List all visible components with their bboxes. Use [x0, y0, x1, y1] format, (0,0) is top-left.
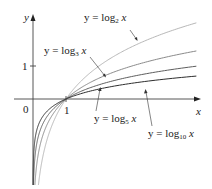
log10-label-base: 10	[179, 133, 186, 141]
log3-label-base: 3	[75, 50, 79, 58]
log10-pointer-arrow-icon	[144, 89, 148, 94]
log2-pointer-arrow-icon	[135, 37, 138, 41]
x-tick-label-1: 1	[64, 105, 70, 116]
log3-label: y = log3 x	[44, 45, 86, 58]
y-axis-label: y	[24, 12, 29, 23]
log-functions-chart	[0, 0, 212, 189]
origin-label: 0	[23, 104, 29, 115]
log5-label-base: 5	[125, 118, 129, 126]
log10-label: y = log10 x	[148, 128, 194, 141]
log5-label-prefix: y = log	[94, 112, 125, 124]
y-tick-label-1: 1	[22, 61, 28, 72]
log2-label-prefix: y = log	[84, 11, 115, 23]
x-axis-label: x	[196, 106, 201, 117]
log3-pointer	[90, 57, 105, 76]
x-axis-arrow-icon	[194, 97, 201, 102]
log5-label-var: x	[132, 112, 137, 124]
log5-pointer	[96, 89, 100, 111]
log2-label: y = log2 x	[84, 12, 126, 25]
log3-label-prefix: y = log	[44, 44, 75, 56]
y-axis-arrow-icon	[31, 14, 36, 21]
log5-label: y = log5 x	[94, 113, 136, 126]
log10-pointer	[146, 92, 152, 126]
log2-label-var: x	[122, 11, 127, 23]
log10-label-var: x	[189, 127, 194, 139]
log3-label-var: x	[82, 44, 87, 56]
log2-label-base: 2	[115, 17, 119, 25]
log10-label-prefix: y = log	[148, 127, 179, 139]
